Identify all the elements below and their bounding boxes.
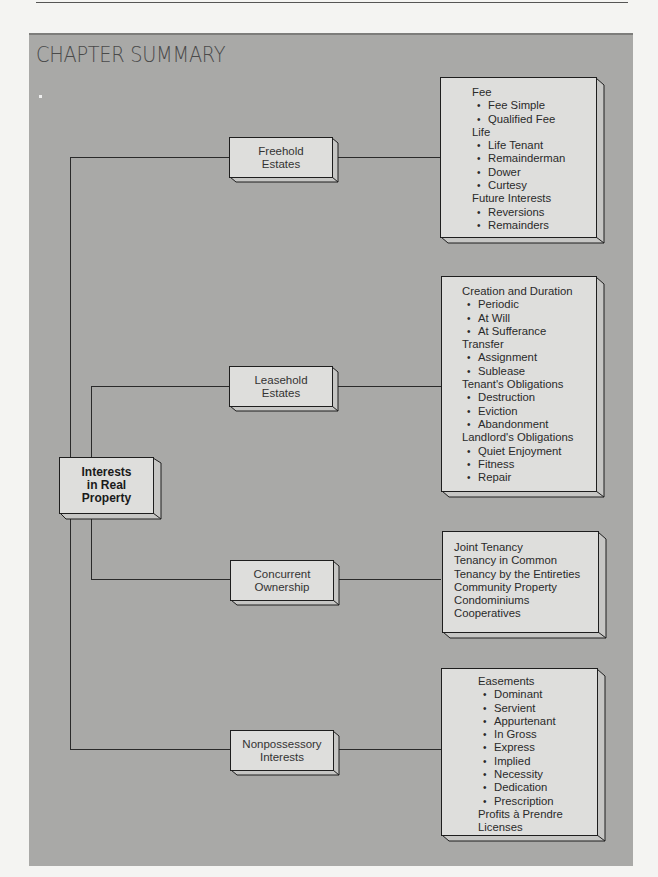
- detail-bullet-item: Remainderman: [472, 152, 565, 165]
- detail-bullet-item: Servient: [478, 702, 563, 715]
- detail-heading: Tenant's Obligations: [462, 378, 573, 391]
- detail-heading: Licenses: [478, 821, 563, 834]
- root-label-line: Property: [82, 492, 131, 505]
- top-rule: [36, 2, 628, 3]
- connector-freehold-details: [338, 157, 441, 158]
- branch-node-leasehold: Leasehold Estates: [229, 366, 339, 412]
- detail-bullet-item: Abandonment: [462, 418, 573, 431]
- detail-heading: Cooperatives: [454, 607, 580, 620]
- detail-heading: Creation and Duration: [462, 285, 573, 298]
- detail-bullet-item: Periodic: [462, 298, 573, 311]
- detail-bullet-item: Curtesy: [472, 179, 565, 192]
- detail-heading: Life: [472, 126, 565, 139]
- label-line: Estates: [262, 158, 300, 171]
- detail-bullet-item: Implied: [478, 755, 563, 768]
- detail-heading: Community Property: [454, 581, 580, 594]
- connector-root-freehold: [70, 157, 230, 158]
- nonpossessory-label: Nonpossessory Interests: [230, 730, 334, 771]
- detail-heading: Joint Tenancy: [454, 541, 580, 554]
- detail-heading: Easements: [478, 675, 563, 688]
- detail-bullet-item: Fitness: [462, 458, 573, 471]
- label-line: Interests: [260, 751, 304, 764]
- detail-bullet-item: Life Tenant: [472, 139, 565, 152]
- connector-leasehold-details: [338, 386, 441, 387]
- detail-bullet-item: Destruction: [462, 391, 573, 404]
- connector-root-nonpossessory: [70, 749, 230, 750]
- detail-bullet-item: Sublease: [462, 365, 573, 378]
- connector-root-concurrent: [91, 579, 230, 580]
- detail-heading: Fee: [472, 86, 565, 99]
- connector-concurrent-details: [338, 579, 441, 580]
- label-line: Freehold: [258, 145, 303, 158]
- connector-root-leasehold: [91, 386, 230, 387]
- detail-heading: Tenancy in Common: [454, 554, 580, 567]
- detail-bullet-item: Reversions: [472, 206, 565, 219]
- detail-bullet-item: Remainders: [472, 219, 565, 232]
- detail-bullet-item: Dominant: [478, 688, 563, 701]
- detail-list-concurrent: Joint TenancyTenancy in CommonTenancy by…: [454, 541, 580, 621]
- label-line: Ownership: [255, 581, 310, 594]
- speck-mark: [39, 95, 42, 98]
- label-line: Estates: [262, 387, 300, 400]
- label-line: Nonpossessory: [242, 738, 321, 751]
- detail-heading: Transfer: [462, 338, 573, 351]
- detail-bullet-item: Assignment: [462, 351, 573, 364]
- detail-bullet-item: Appurtenant: [478, 715, 563, 728]
- detail-bullet-item: Quiet Enjoyment: [462, 445, 573, 458]
- detail-bullet-item: Repair: [462, 471, 573, 484]
- detail-bullet-item: Dedication: [478, 781, 563, 794]
- detail-bullet-item: Eviction: [462, 405, 573, 418]
- label-line: Concurrent: [254, 568, 311, 581]
- detail-bullet-item: Dower: [472, 166, 565, 179]
- trunk-outer: [70, 157, 71, 750]
- concurrent-label: Concurrent Ownership: [230, 560, 334, 601]
- branch-node-concurrent: Concurrent Ownership: [230, 560, 340, 606]
- detail-bullet-item: Prescription: [478, 795, 563, 808]
- detail-bullet-item: At Will: [462, 312, 573, 325]
- detail-heading: Condominiums: [454, 594, 580, 607]
- detail-heading: Landlord's Obligations: [462, 431, 573, 444]
- branch-node-freehold: Freehold Estates: [229, 137, 339, 183]
- detail-bullet-item: Express: [478, 741, 563, 754]
- detail-heading: Profits à Prendre: [478, 808, 563, 821]
- label-line: Leasehold: [254, 374, 307, 387]
- detail-bullet-item: In Gross: [478, 728, 563, 741]
- leasehold-label: Leasehold Estates: [229, 366, 333, 407]
- detail-heading: Future Interests: [472, 192, 565, 205]
- detail-bullet-item: Necessity: [478, 768, 563, 781]
- detail-list-leasehold: Creation and DurationPeriodicAt WillAt S…: [462, 285, 573, 484]
- detail-heading: Tenancy by the Entireties: [454, 568, 580, 581]
- root-node-label: Interests in Real Property: [59, 457, 154, 514]
- page-title: CHAPTER SUMMARY: [36, 43, 225, 67]
- branch-node-nonpossessory: Nonpossessory Interests: [230, 730, 340, 776]
- detail-list-nonpossessory: EasementsDominantServientAppurtenantIn G…: [478, 675, 563, 835]
- connector-nonpossessory-details: [338, 749, 441, 750]
- freehold-label: Freehold Estates: [229, 137, 333, 178]
- detail-bullet-item: At Sufferance: [462, 325, 573, 338]
- detail-bullet-item: Qualified Fee: [472, 113, 565, 126]
- root-node: Interests in Real Property: [59, 457, 162, 520]
- detail-list-freehold: FeeFee SimpleQualified FeeLifeLife Tenan…: [472, 86, 565, 232]
- detail-bullet-item: Fee Simple: [472, 99, 565, 112]
